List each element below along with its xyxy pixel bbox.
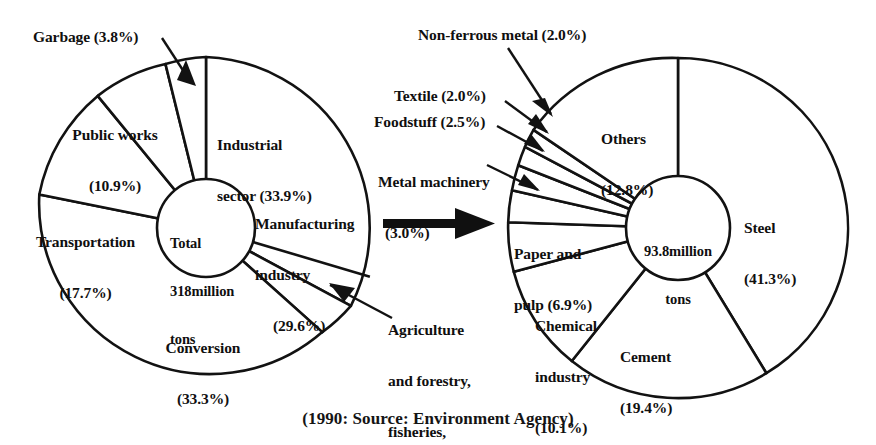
left-label-transportation-line1: Transportation <box>23 233 148 250</box>
left-pie-center-label: Total 318million tons <box>170 203 250 379</box>
left-label-public-works-line2: (10.9%) <box>50 177 180 194</box>
left-label-transportation-line2: (17.7%) <box>23 284 148 301</box>
right-label-textile: Textile (2.0%) <box>394 87 486 104</box>
right-pie-center-line1: 93.8million <box>622 243 734 259</box>
pie-chart-figure: Garbage (3.8%) Public works (10.9%) Tran… <box>0 0 876 445</box>
right-leader-non-ferrous-metal <box>508 48 553 117</box>
left-label-manufacturing-industry: Manufacturing industry (29.6%) <box>255 181 354 368</box>
right-label-steel-line1: Steel <box>744 219 796 236</box>
right-label-foodstuff: Foodstuff (2.5%) <box>374 113 485 130</box>
left-label-manufacturing-industry-line3: (29.6%) <box>255 317 354 334</box>
right-label-chemical-industry-line2: industry <box>535 368 597 385</box>
left-label-transportation: Transportation (17.7%) <box>23 199 148 335</box>
right-label-non-ferrous-metal: Non-ferrous metal (2.0%) <box>418 26 586 43</box>
right-label-metal-machinery: Metal machinery (3.0%) <box>378 139 490 275</box>
right-label-steel-line2: (41.3%) <box>744 270 796 287</box>
figure-caption: (1990: Source: Environment Agency) <box>0 409 876 429</box>
left-pie-center-line1: Total <box>170 235 250 251</box>
right-pie-center-line2: tons <box>622 291 734 307</box>
right-label-paper-and-pulp-line1: Paper and <box>514 245 592 262</box>
right-label-metal-machinery-line1: Metal machinery <box>378 173 490 190</box>
left-label-conversion-line2: (33.3%) <box>143 390 263 407</box>
left-pie-center-line3: tons <box>170 331 250 347</box>
right-label-paper-and-pulp: Paper and pulp (6.9%) <box>514 211 592 347</box>
left-label-agriculture-line1: Agriculture <box>388 321 511 338</box>
left-label-agriculture-line2: and forestry, <box>388 372 511 389</box>
left-label-manufacturing-industry-line2: industry <box>255 266 354 283</box>
left-label-garbage: Garbage (3.8%) <box>33 28 138 45</box>
left-pie-center-line2: 318million <box>170 283 250 299</box>
right-label-others-line1: Others <box>601 130 653 147</box>
right-label-steel: Steel (41.3%) <box>744 185 796 321</box>
left-label-manufacturing-industry-line1: Manufacturing <box>255 215 354 232</box>
right-label-metal-machinery-line2: (3.0%) <box>378 224 490 241</box>
left-label-industrial-sector-line1: Industrial <box>217 136 312 153</box>
right-label-paper-and-pulp-line2: pulp (6.9%) <box>514 296 592 313</box>
left-label-public-works-line1: Public works <box>50 126 180 143</box>
right-pie-center-label: 93.8million tons <box>622 211 734 339</box>
right-label-cement-line1: Cement <box>620 348 672 365</box>
right-label-others-line2: (12.8%) <box>601 181 653 198</box>
